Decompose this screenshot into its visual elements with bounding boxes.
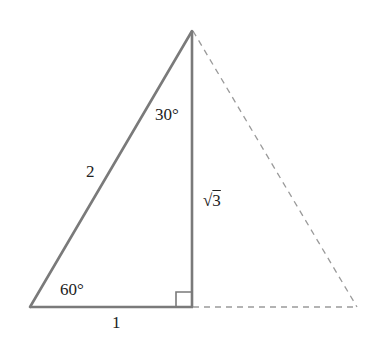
triangle-diagram: 30° 2 √3 60° 1 <box>0 0 386 345</box>
dashed-side <box>193 31 357 307</box>
right-angle-marker <box>176 292 192 307</box>
triangle-figure <box>0 0 386 345</box>
base-label: 1 <box>112 314 121 331</box>
height-label: √3 <box>203 192 221 209</box>
sqrt-radicand: 3 <box>212 191 221 210</box>
angle-bottom-left-label: 60° <box>60 281 84 298</box>
sqrt-symbol: √ <box>203 191 212 210</box>
hypotenuse-label: 2 <box>86 163 95 180</box>
angle-top-label: 30° <box>155 106 179 123</box>
hypotenuse-line <box>30 31 192 307</box>
